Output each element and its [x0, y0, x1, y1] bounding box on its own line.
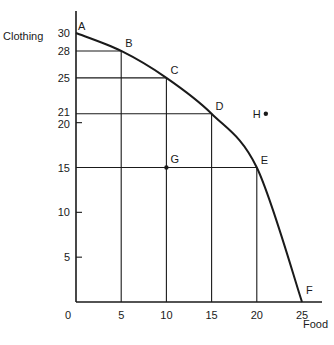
x-tick-label: 10: [160, 309, 172, 321]
point-label-h: H: [253, 108, 261, 120]
point-label-c: C: [170, 64, 178, 76]
y-tick-label: 21: [58, 106, 70, 118]
point-label-g: G: [170, 153, 179, 165]
y-tick-label: 28: [58, 45, 70, 57]
y-tick-label: 30: [58, 27, 70, 39]
x-axis-title: Food: [303, 318, 328, 330]
y-axis-title: Clothing: [3, 30, 43, 42]
x-tick-label: 0: [65, 309, 71, 321]
y-tick-label: 5: [64, 251, 70, 263]
axis-ticks: 5101520212528300510152025: [58, 27, 308, 321]
point-label-e: E: [261, 154, 268, 166]
y-tick-label: 20: [58, 118, 70, 130]
y-tick-label: 10: [58, 206, 70, 218]
point-label-b: B: [125, 37, 132, 49]
point-label-d: D: [216, 100, 224, 112]
x-tick-label: 20: [251, 309, 263, 321]
guide-lines: [76, 51, 257, 302]
y-tick-label: 25: [58, 72, 70, 84]
point-h: [264, 112, 268, 116]
point-g: [164, 165, 168, 169]
x-tick-label: 5: [118, 309, 124, 321]
point-label-f: F: [306, 284, 313, 296]
point-label-a: A: [78, 20, 86, 32]
ppf-chart: 5101520212528300510152025 ABCDEFGH Cloth…: [0, 0, 334, 345]
point-labels: ABCDEFGH: [78, 20, 313, 296]
x-tick-label: 15: [205, 309, 217, 321]
y-tick-label: 15: [58, 162, 70, 174]
